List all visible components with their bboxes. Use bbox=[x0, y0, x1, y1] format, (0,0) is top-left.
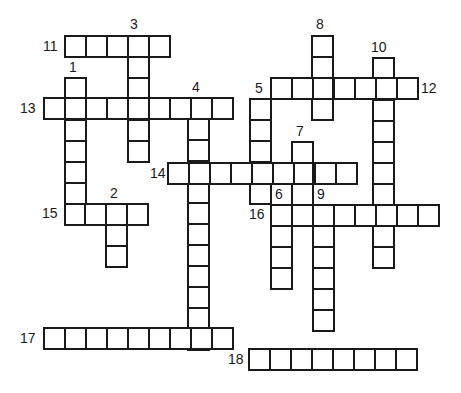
crossword-cell[interactable] bbox=[187, 139, 210, 162]
crossword-cell[interactable] bbox=[85, 97, 108, 120]
crossword-cell[interactable] bbox=[311, 98, 334, 121]
crossword-cell[interactable] bbox=[372, 99, 395, 122]
cell-letter-input[interactable] bbox=[293, 206, 312, 225]
crossword-cell[interactable] bbox=[374, 348, 397, 371]
cell-letter-input[interactable] bbox=[274, 164, 293, 183]
crossword-cell[interactable] bbox=[148, 327, 171, 350]
crossword-cell[interactable] bbox=[43, 327, 66, 350]
cell-letter-input[interactable] bbox=[213, 99, 232, 118]
crossword-cell[interactable] bbox=[396, 204, 419, 227]
crossword-cell[interactable] bbox=[270, 246, 293, 269]
cell-letter-input[interactable] bbox=[374, 227, 393, 246]
crossword-cell[interactable] bbox=[106, 97, 129, 120]
crossword-cell[interactable] bbox=[314, 162, 337, 185]
crossword-cell[interactable] bbox=[312, 246, 335, 269]
cell-letter-input[interactable] bbox=[150, 329, 169, 348]
cell-letter-input[interactable] bbox=[150, 99, 169, 118]
cell-letter-input[interactable] bbox=[66, 79, 85, 98]
crossword-cell[interactable] bbox=[187, 202, 210, 225]
crossword-cell[interactable] bbox=[291, 204, 314, 227]
cell-letter-input[interactable] bbox=[87, 329, 106, 348]
crossword-cell[interactable] bbox=[127, 35, 150, 58]
cell-letter-input[interactable] bbox=[314, 290, 333, 309]
cell-letter-input[interactable] bbox=[313, 37, 332, 56]
crossword-cell[interactable] bbox=[270, 204, 293, 227]
cell-letter-input[interactable] bbox=[251, 100, 270, 119]
crossword-cell[interactable] bbox=[335, 162, 358, 185]
cell-letter-input[interactable] bbox=[335, 79, 354, 98]
cell-letter-input[interactable] bbox=[374, 185, 393, 204]
cell-letter-input[interactable] bbox=[293, 185, 312, 204]
crossword-cell[interactable] bbox=[43, 97, 66, 120]
crossword-cell[interactable] bbox=[311, 35, 334, 58]
cell-letter-input[interactable] bbox=[66, 142, 85, 161]
cell-letter-input[interactable] bbox=[189, 309, 208, 328]
cell-letter-input[interactable] bbox=[374, 122, 393, 141]
cell-letter-input[interactable] bbox=[189, 183, 208, 202]
crossword-cell[interactable] bbox=[64, 327, 87, 350]
crossword-cell[interactable] bbox=[311, 348, 334, 371]
cell-letter-input[interactable] bbox=[316, 164, 335, 183]
crossword-cell[interactable] bbox=[187, 223, 210, 246]
crossword-cell[interactable] bbox=[105, 245, 128, 268]
cell-letter-input[interactable] bbox=[107, 205, 126, 224]
crossword-cell[interactable] bbox=[396, 77, 419, 100]
cell-letter-input[interactable] bbox=[293, 79, 312, 98]
cell-letter-input[interactable] bbox=[86, 205, 105, 224]
cell-letter-input[interactable] bbox=[397, 350, 416, 369]
crossword-cell[interactable] bbox=[85, 35, 108, 58]
cell-letter-input[interactable] bbox=[66, 121, 85, 140]
crossword-cell[interactable] bbox=[209, 162, 232, 185]
cell-letter-input[interactable] bbox=[314, 311, 333, 330]
cell-letter-input[interactable] bbox=[313, 100, 332, 119]
crossword-cell[interactable] bbox=[187, 286, 210, 309]
cell-letter-input[interactable] bbox=[376, 350, 395, 369]
crossword-cell[interactable] bbox=[332, 348, 355, 371]
cell-letter-input[interactable] bbox=[377, 206, 396, 225]
cell-letter-input[interactable] bbox=[293, 143, 312, 162]
cell-letter-input[interactable] bbox=[129, 142, 148, 161]
cell-letter-input[interactable] bbox=[87, 99, 106, 118]
crossword-cell[interactable] bbox=[84, 203, 107, 226]
cell-letter-input[interactable] bbox=[232, 164, 251, 183]
crossword-cell[interactable] bbox=[312, 309, 335, 332]
crossword-cell[interactable] bbox=[127, 56, 150, 79]
crossword-cell[interactable] bbox=[372, 183, 395, 206]
cell-letter-input[interactable] bbox=[314, 206, 333, 225]
crossword-cell[interactable] bbox=[375, 204, 398, 227]
crossword-cell[interactable] bbox=[270, 77, 293, 100]
cell-letter-input[interactable] bbox=[66, 184, 85, 203]
crossword-cell[interactable] bbox=[211, 327, 234, 350]
cell-letter-input[interactable] bbox=[66, 329, 85, 348]
crossword-cell[interactable] bbox=[311, 56, 334, 79]
crossword-cell[interactable] bbox=[167, 162, 190, 185]
cell-letter-input[interactable] bbox=[66, 163, 85, 182]
cell-letter-input[interactable] bbox=[189, 288, 208, 307]
cell-letter-input[interactable] bbox=[190, 164, 209, 183]
cell-letter-input[interactable] bbox=[107, 226, 126, 245]
cell-letter-input[interactable] bbox=[356, 79, 375, 98]
crossword-cell[interactable] bbox=[372, 225, 395, 248]
cell-letter-input[interactable] bbox=[192, 329, 211, 348]
cell-letter-input[interactable] bbox=[108, 99, 127, 118]
cell-letter-input[interactable] bbox=[213, 329, 232, 348]
crossword-cell[interactable] bbox=[127, 97, 150, 120]
crossword-cell[interactable] bbox=[148, 97, 171, 120]
cell-letter-input[interactable] bbox=[314, 269, 333, 288]
cell-letter-input[interactable] bbox=[272, 206, 291, 225]
cell-letter-input[interactable] bbox=[129, 121, 148, 140]
crossword-cell[interactable] bbox=[251, 162, 274, 185]
crossword-cell[interactable] bbox=[249, 182, 272, 205]
crossword-cell[interactable] bbox=[372, 141, 395, 164]
crossword-cell[interactable] bbox=[127, 327, 150, 350]
crossword-cell[interactable] bbox=[105, 203, 128, 226]
crossword-cell[interactable] bbox=[272, 162, 295, 185]
crossword-cell[interactable] bbox=[249, 119, 272, 142]
crossword-cell[interactable] bbox=[395, 348, 418, 371]
cell-letter-input[interactable] bbox=[272, 248, 291, 267]
crossword-cell[interactable] bbox=[312, 204, 335, 227]
crossword-cell[interactable] bbox=[249, 140, 272, 163]
cell-letter-input[interactable] bbox=[129, 37, 148, 56]
crossword-cell[interactable] bbox=[269, 348, 292, 371]
cell-letter-input[interactable] bbox=[129, 99, 148, 118]
